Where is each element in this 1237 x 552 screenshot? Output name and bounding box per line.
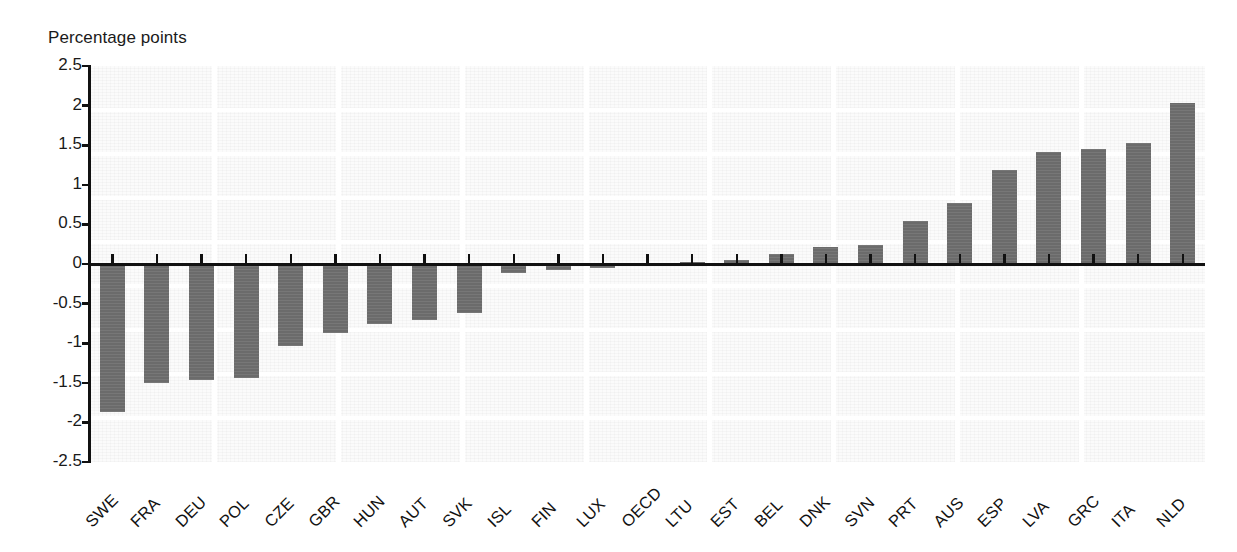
y-axis-tick-label: 0 bbox=[22, 253, 82, 273]
grid-line-horizontal bbox=[90, 108, 1205, 112]
y-axis-tick-label: -1 bbox=[22, 332, 82, 352]
y-axis-tick-label: -1.5 bbox=[22, 372, 82, 392]
chart-root: Percentage points 2.521.510.50-0.5-1-1.5… bbox=[0, 0, 1237, 552]
bar-deu bbox=[189, 264, 214, 380]
x-axis-label-grc: GRC bbox=[1063, 491, 1103, 531]
x-axis-label-svk: SVK bbox=[439, 494, 476, 531]
bar-fra bbox=[144, 264, 169, 383]
x-axis-tick bbox=[334, 254, 337, 263]
x-axis-tick bbox=[468, 254, 471, 263]
bar-gbr bbox=[323, 264, 348, 333]
x-axis-label-swe: SWE bbox=[82, 491, 122, 531]
x-axis-tick bbox=[780, 254, 783, 263]
x-axis-label-aus: AUS bbox=[929, 493, 967, 531]
y-axis-title: Percentage points bbox=[48, 28, 187, 48]
y-axis-tick bbox=[82, 65, 91, 68]
x-axis-label-gbr: GBR bbox=[305, 492, 344, 531]
x-axis-tick bbox=[111, 254, 114, 263]
y-axis-tick bbox=[82, 461, 91, 464]
x-axis-label-prt: PRT bbox=[885, 494, 922, 531]
bar-grc bbox=[1081, 149, 1106, 264]
x-axis-label-ita: ITA bbox=[1108, 500, 1139, 531]
x-axis-tick bbox=[1092, 254, 1095, 263]
y-axis-tick bbox=[82, 104, 91, 107]
x-axis-label-lux: LUX bbox=[572, 494, 609, 531]
y-axis-tick-label: 1 bbox=[22, 174, 82, 194]
x-axis-label-est: EST bbox=[706, 494, 743, 531]
x-axis-tick bbox=[602, 254, 605, 263]
bar-swe bbox=[100, 264, 125, 412]
grid-line-horizontal bbox=[90, 416, 1205, 420]
y-axis-tick-label: 2.5 bbox=[22, 55, 82, 75]
x-axis-tick bbox=[423, 254, 426, 263]
y-axis-tick-label: -2 bbox=[22, 411, 82, 431]
bar-hun bbox=[367, 264, 392, 324]
y-axis-tick-label: 0.5 bbox=[22, 213, 82, 233]
x-axis-tick bbox=[646, 254, 649, 263]
x-axis-label-deu: DEU bbox=[171, 493, 209, 531]
x-axis-tick bbox=[513, 254, 516, 263]
x-axis-tick bbox=[736, 254, 739, 263]
x-axis-label-aut: AUT bbox=[394, 494, 431, 531]
x-axis-tick bbox=[959, 254, 962, 263]
x-axis-tick bbox=[914, 254, 917, 263]
x-axis-label-nld: NLD bbox=[1152, 494, 1189, 531]
x-axis-label-dnk: DNK bbox=[795, 493, 833, 531]
x-axis-tick bbox=[245, 254, 248, 263]
bar-aut bbox=[412, 264, 437, 320]
y-axis-tick bbox=[82, 302, 91, 305]
x-axis-tick bbox=[825, 254, 828, 263]
x-axis-label-ltu: LTU bbox=[662, 496, 697, 531]
bar-svk bbox=[457, 264, 482, 313]
y-axis-tick-label: 1.5 bbox=[22, 134, 82, 154]
x-axis-tick bbox=[1003, 254, 1006, 263]
x-axis-label-isl: ISL bbox=[483, 500, 514, 531]
y-axis-tick bbox=[82, 184, 91, 187]
bar-pol bbox=[234, 264, 259, 378]
x-axis-tick bbox=[1137, 254, 1140, 263]
bar-ita bbox=[1126, 143, 1151, 264]
bar-lva bbox=[1036, 152, 1061, 264]
x-axis-label-bel: BEL bbox=[751, 495, 787, 531]
x-axis-tick bbox=[379, 254, 382, 263]
y-axis-tick bbox=[82, 342, 91, 345]
bar-esp bbox=[992, 170, 1017, 264]
x-axis-label-fin: FIN bbox=[528, 498, 561, 531]
x-axis-label-lva: LVA bbox=[1018, 497, 1052, 531]
x-axis-label-pol: POL bbox=[216, 494, 253, 531]
y-axis-tick bbox=[82, 144, 91, 147]
y-axis-tick-label: -0.5 bbox=[22, 293, 82, 313]
x-axis-label-svn: SVN bbox=[840, 493, 878, 531]
x-axis-label-esp: ESP bbox=[974, 494, 1011, 531]
x-axis-tick bbox=[1048, 254, 1051, 263]
x-axis-label-fra: FRA bbox=[126, 494, 163, 531]
x-axis-tick bbox=[200, 254, 203, 263]
x-axis-tick bbox=[869, 254, 872, 263]
bar-nld bbox=[1170, 103, 1195, 264]
x-axis-label-hun: HUN bbox=[349, 492, 388, 531]
x-axis-tick bbox=[557, 254, 560, 263]
x-axis-label-oecd: OECD bbox=[617, 483, 665, 531]
x-axis-tick bbox=[1182, 254, 1185, 263]
bar-cze bbox=[278, 264, 303, 346]
y-axis-tick bbox=[82, 421, 91, 424]
x-axis-tick bbox=[290, 254, 293, 263]
x-axis-label-cze: CZE bbox=[260, 494, 297, 531]
y-axis-tick bbox=[82, 382, 91, 385]
y-axis-tick-label: -2.5 bbox=[22, 451, 82, 471]
x-axis-tick bbox=[691, 254, 694, 263]
x-axis-tick bbox=[156, 254, 159, 263]
y-axis-tick-label: 2 bbox=[22, 95, 82, 115]
y-axis-tick bbox=[82, 223, 91, 226]
